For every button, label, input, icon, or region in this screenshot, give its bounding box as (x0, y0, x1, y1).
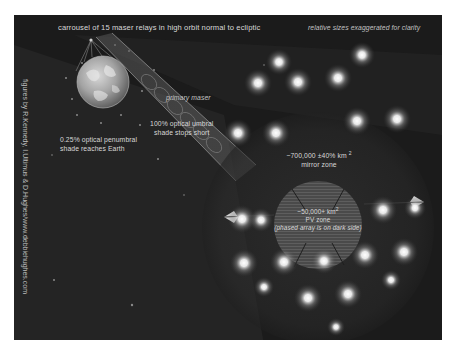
mirror-zone-value: ~700,000 ±40% km (286, 152, 346, 159)
mirror-zone-label: ~700,000 ±40% km 2 mirror zone (279, 149, 359, 169)
earth (77, 56, 129, 108)
pv-zone-name: PV zone (268, 216, 368, 224)
pv-zone-label: ~50,000+ km2 PV zone (phased array is on… (268, 205, 368, 232)
penumbral-shade-label: 0.25% optical penumbral shade reaches Ea… (60, 135, 137, 153)
umbral-line-1: 100% optical umbral (150, 119, 213, 128)
figure-note: relative sizes exaggerated for clarity (308, 23, 420, 32)
pv-zone-note: (phased array is on dark side) (268, 224, 368, 232)
umbral-line-2: shade stops short (150, 128, 213, 137)
pv-zone-value: ~50,000+ km (297, 208, 335, 215)
figure-credit: figures by R.Kennedy, I.Ultimus & D.Hugh… (22, 79, 29, 294)
mirror-zone-exponent: 2 (349, 150, 352, 156)
penumbral-line-1: 0.25% optical penumbral (60, 135, 137, 144)
primary-maser-label: primary maser (166, 93, 211, 102)
umbral-shade-label: 100% optical umbral shade stops short (150, 119, 213, 137)
diagram-canvas (14, 15, 442, 340)
relay-source-point (89, 38, 92, 41)
diagram-panel: carrousel of 15 maser relays in high orb… (14, 15, 442, 340)
mirror-zone-name: mirror zone (279, 160, 359, 169)
figure-title: carrousel of 15 maser relays in high orb… (58, 23, 260, 32)
penumbral-line-2: shade reaches Earth (60, 144, 137, 153)
pv-zone-exponent: 2 (336, 206, 339, 212)
